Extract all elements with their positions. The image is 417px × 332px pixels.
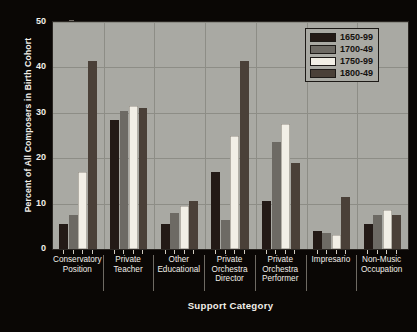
legend-label: 1750-99: [340, 57, 373, 66]
legend-swatch: [310, 33, 336, 42]
x-axis-category-label: Impresario: [306, 255, 357, 265]
bar: [170, 213, 179, 249]
bar: [88, 61, 97, 249]
y-axis-tick-label: 0: [22, 243, 46, 253]
bar: [313, 231, 322, 249]
x-axis-category-label: Non-MusicOccupation: [356, 255, 407, 274]
x-axis-tick-mark: [386, 250, 387, 254]
y-axis-tick-labels: 01020304050: [22, 0, 46, 332]
legend-item: 1700-49: [310, 44, 373, 54]
bar: [59, 224, 68, 249]
x-axis-category-label: PrivateOrchestraPerformer: [255, 255, 306, 284]
x-axis-tick-mark: [377, 250, 378, 254]
x-axis-category-line: Private: [256, 255, 305, 265]
x-axis-tick-mark: [225, 250, 226, 254]
bar: [392, 215, 401, 249]
bar: [221, 220, 230, 250]
y-axis-tick-label: 10: [22, 198, 46, 208]
x-axis-tick-mark: [193, 250, 194, 254]
x-axis-tick-mark: [317, 250, 318, 254]
bar: [373, 215, 382, 249]
x-axis-category-line: Performer: [256, 274, 305, 284]
legend-label: 1700-49: [340, 45, 373, 54]
y-axis-tick-label: 30: [22, 107, 46, 117]
y-axis-tick-label: 20: [22, 152, 46, 162]
legend-label: 1650-99: [340, 33, 373, 42]
x-axis-category-separator: [356, 255, 357, 291]
x-axis-category-separator: [306, 255, 307, 291]
legend-item: 1800-49: [310, 68, 373, 78]
x-axis-category-separator: [255, 255, 256, 291]
x-axis-tick-mark: [244, 250, 245, 254]
bar: [211, 172, 220, 249]
bar: [262, 201, 271, 249]
legend-swatch: [310, 69, 336, 78]
legend-item: 1650-99: [310, 32, 373, 42]
y-axis-tick-label: 40: [22, 61, 46, 71]
bar-group: [205, 22, 256, 249]
bar: [341, 197, 350, 249]
chart-legend: 1650-991700-491750-991800-49: [305, 28, 379, 82]
x-axis-category-line: Private: [205, 255, 254, 265]
x-axis-category-line: Director: [205, 274, 254, 284]
x-axis-category-line: Impresario: [307, 255, 356, 265]
legend-label: 1800-49: [340, 69, 373, 78]
x-axis-tick-mark: [142, 250, 143, 254]
x-axis-category-separator: [153, 255, 154, 291]
x-axis-category-line: Conservatory: [53, 255, 102, 265]
x-axis-tick-mark: [92, 250, 93, 254]
x-axis-tick-mark: [174, 250, 175, 254]
x-axis-tick-mark: [266, 250, 267, 254]
chart-figure: Percent of All Composers in Birth Cohort…: [0, 0, 417, 332]
x-axis-tick-mark: [396, 250, 397, 254]
x-axis-ticks: [52, 250, 409, 254]
x-axis-tick-mark: [345, 250, 346, 254]
bar: [240, 61, 249, 249]
bar: [69, 215, 78, 249]
bar: [120, 111, 129, 249]
bar: [161, 224, 170, 249]
x-axis-category-line: Teacher: [104, 265, 153, 275]
x-axis-tick-mark: [73, 250, 74, 254]
x-axis-category-label: PrivateOrchestraDirector: [204, 255, 255, 284]
bar: [180, 206, 189, 249]
x-axis-tick-mark: [294, 250, 295, 254]
x-axis-tick-mark: [234, 250, 235, 254]
x-axis-tick-mark: [82, 250, 83, 254]
bar: [322, 233, 331, 249]
x-axis-category-separator: [103, 255, 104, 291]
x-axis-category-label: OtherEducational: [153, 255, 204, 274]
x-axis-category-label: ConservatoryPosition: [52, 255, 103, 274]
bar: [189, 201, 198, 249]
y-axis-tick-label: 50: [22, 16, 46, 26]
bar: [364, 224, 373, 249]
x-axis-tick-mark: [285, 250, 286, 254]
legend-item: 1750-99: [310, 56, 373, 66]
x-axis-tick-mark: [114, 250, 115, 254]
x-axis-category-separator: [204, 255, 205, 291]
x-axis-category-label: PrivateTeacher: [103, 255, 154, 274]
bar: [272, 142, 281, 249]
x-axis-category-labels: ConservatoryPositionPrivateTeacherOtherE…: [52, 255, 409, 295]
x-axis-category-line: Educational: [154, 265, 203, 275]
bar: [291, 163, 300, 249]
bar-group: [53, 22, 104, 249]
x-axis-tick-mark: [184, 250, 185, 254]
x-axis-title: Support Category: [52, 300, 409, 311]
x-axis-tick-mark: [367, 250, 368, 254]
x-axis-category-line: Orchestra: [205, 265, 254, 275]
x-axis-category-line: Orchestra: [256, 265, 305, 275]
x-axis-category-line: Position: [53, 265, 102, 275]
x-axis-tick-mark: [63, 250, 64, 254]
x-axis-tick-mark: [336, 250, 337, 254]
x-axis-category-line: Private: [104, 255, 153, 265]
x-axis-tick-mark: [326, 250, 327, 254]
bar: [383, 210, 392, 249]
bar-group: [256, 22, 307, 249]
bar: [332, 235, 341, 249]
bar: [139, 108, 148, 249]
x-axis-category-line: Non-Music: [357, 255, 406, 265]
bar: [281, 124, 290, 249]
bar-group: [104, 22, 155, 249]
bar: [110, 120, 119, 249]
